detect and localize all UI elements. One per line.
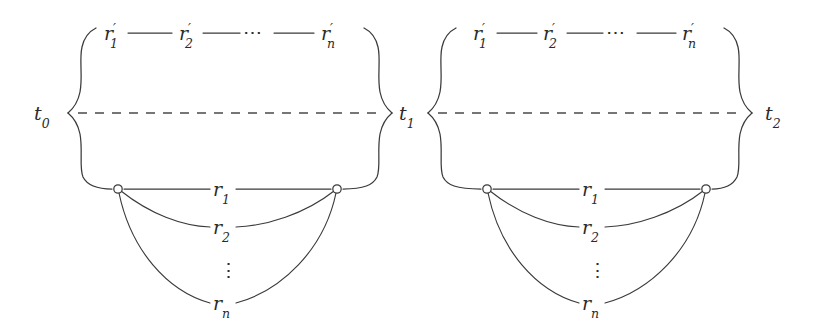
figure-root: r′1 r′2 ⋯ r′n r1 r2 ⋮ rn: [0, 0, 822, 326]
cell-left-bottom-vdots: ⋮: [219, 259, 238, 281]
cell-left-edge-rn-right: [236, 193, 336, 303]
cell-left-top-label-r1prime: r′1: [104, 21, 118, 51]
cell-right-edge-rn-left: [488, 193, 579, 303]
cell-right-node-circle-end: [702, 185, 710, 193]
vertex-label-t1: t1: [399, 102, 415, 131]
cell-left-edge-r2-left: [121, 191, 210, 227]
cell-right-top-hdots: ⋯: [606, 21, 627, 43]
cell-right-bottom-vdots: ⋮: [588, 259, 607, 281]
cell-right-left-brace: [428, 28, 481, 189]
cell-left-bottom-label-rn: rn: [213, 292, 230, 321]
cell-right-bottom-label-rn: rn: [582, 292, 599, 321]
cell-left-bottom-label-r2: r2: [213, 216, 230, 245]
cell-left-edge-rn-left: [119, 193, 210, 303]
cell-left-top-label-r2prime: r′2: [179, 21, 193, 51]
cell-right: r′1 r′2 ⋯ r′n r1 r2 ⋮ rn: [428, 21, 752, 321]
cell-right-node-circle-start: [483, 185, 491, 193]
cell-left: r′1 r′2 ⋯ r′n r1 r2 ⋮ rn: [68, 21, 392, 321]
diagram-canvas: r′1 r′2 ⋯ r′n r1 r2 ⋮ rn: [0, 0, 822, 326]
cell-left-right-brace: [343, 28, 392, 189]
cell-left-top-label-rnprime: r′n: [321, 21, 335, 51]
cell-left-left-brace: [68, 28, 112, 189]
cell-right-top-label-r2prime: r′2: [543, 21, 557, 51]
cell-left-bottom-label-r1: r1: [213, 178, 230, 207]
cell-left-node-circle-end: [333, 185, 341, 193]
cell-right-right-brace: [712, 28, 752, 189]
cell-right-edge-r2-right: [605, 191, 703, 227]
vertex-label-t0: t0: [34, 102, 50, 131]
vertex-label-t2: t2: [765, 102, 781, 131]
cell-right-edge-rn-right: [605, 193, 705, 303]
cell-left-top-hdots: ⋯: [243, 21, 264, 43]
cell-right-bottom-label-r1: r1: [582, 178, 599, 207]
cell-right-bottom-label-r2: r2: [582, 216, 599, 245]
cell-right-edge-r2-left: [490, 191, 579, 227]
cell-left-edge-r2-right: [236, 191, 334, 227]
cell-right-top-label-r1prime: r′1: [473, 21, 487, 51]
cell-left-node-circle-start: [114, 185, 122, 193]
cell-right-top-label-rnprime: r′n: [682, 21, 696, 51]
